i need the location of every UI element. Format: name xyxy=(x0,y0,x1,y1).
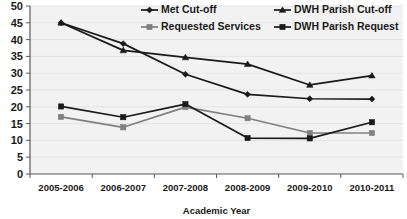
y-tick-label: 0 xyxy=(17,168,23,180)
y-tick-label: 5 xyxy=(17,151,23,163)
y-tick-label: 20 xyxy=(11,101,23,113)
x-tick-label: 2010-2011 xyxy=(349,182,395,193)
y-tick-label: 10 xyxy=(11,134,23,146)
y-tick-label: 50 xyxy=(11,0,23,12)
y-tick-label: 45 xyxy=(11,17,23,29)
y-tick-label: 30 xyxy=(11,67,23,79)
legend-label: Met Cut-off xyxy=(161,3,217,15)
data-point xyxy=(58,114,63,119)
data-point xyxy=(121,125,126,130)
data-point xyxy=(245,135,250,140)
x-axis-title: Academic Year xyxy=(183,205,251,216)
y-tick-label: 15 xyxy=(11,118,23,130)
chart-canvas: 05101520253035404550 2005-20062006-20072… xyxy=(0,0,407,219)
y-tick-label: 25 xyxy=(11,84,23,96)
x-tick-label: 2007-2008 xyxy=(163,182,208,193)
data-point xyxy=(307,136,312,141)
data-point xyxy=(245,116,250,121)
data-point xyxy=(369,120,374,125)
x-tick-label: 2005-2006 xyxy=(38,182,83,193)
legend-label: Requested Services xyxy=(161,20,261,32)
data-point xyxy=(183,102,188,107)
legend-label: DWH Parish Request xyxy=(294,20,399,32)
y-tick-label: 40 xyxy=(11,34,23,46)
y-tick-label: 35 xyxy=(11,50,23,62)
line-chart: 05101520253035404550 2005-20062006-20072… xyxy=(0,0,407,219)
x-tick-label: 2008-2009 xyxy=(225,182,270,193)
data-point xyxy=(121,115,126,120)
data-point xyxy=(307,130,312,135)
legend-marker xyxy=(280,24,285,29)
data-point xyxy=(369,130,374,135)
legend-label: DWH Parish Cut-off xyxy=(294,3,392,15)
legend-marker xyxy=(147,24,152,29)
x-tick-label: 2009-2010 xyxy=(287,182,332,193)
x-tick-label: 2006-2007 xyxy=(101,182,146,193)
data-point xyxy=(58,104,63,109)
